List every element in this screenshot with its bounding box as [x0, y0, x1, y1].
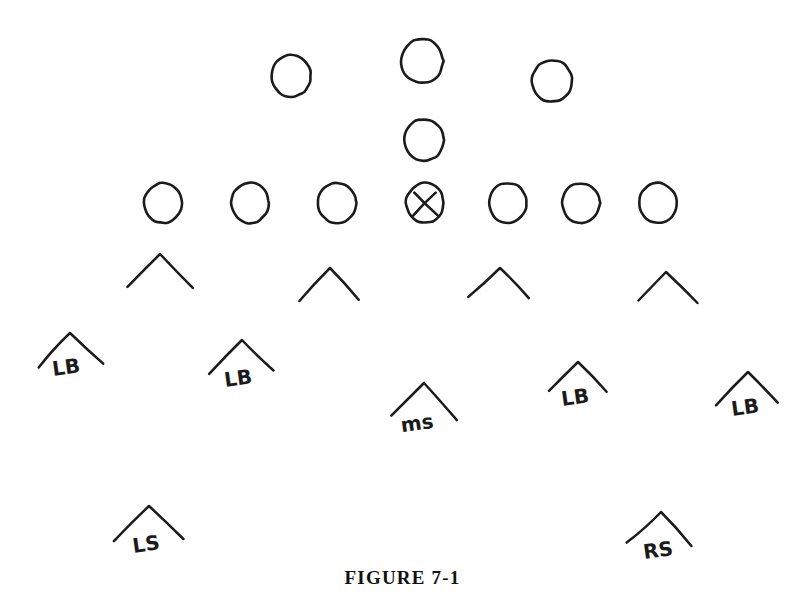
back-right [532, 61, 573, 102]
ol-left-outline [231, 183, 269, 224]
lb-left-label: LB [222, 364, 253, 392]
right-safety-label: RS [642, 536, 675, 564]
ol-left [231, 183, 269, 224]
center-ball [406, 182, 444, 222]
lb-right-label: LB [559, 383, 590, 411]
ol-far-right [639, 183, 676, 223]
dl-1-mark [128, 254, 193, 288]
ol-far-left [144, 183, 182, 223]
lb-far-right: LB [716, 372, 778, 421]
right-safety: RS [627, 512, 692, 564]
ol-right-guard-outline [489, 184, 526, 223]
middle-safety: ms [391, 383, 457, 437]
figure-page: LBLBLBLB msLSRS FIGURE 7-1 [0, 0, 805, 607]
left-safety-label: LS [131, 530, 161, 558]
ol-right [562, 184, 600, 223]
dl-2 [299, 268, 358, 301]
ol-far-left-outline [144, 183, 182, 223]
dl-1 [128, 254, 193, 288]
ol-left-guard-outline [318, 183, 357, 223]
offensive-line-group [144, 182, 677, 223]
lb-far-left-label: LB [50, 353, 81, 381]
dl-4-mark [639, 272, 698, 303]
dl-3 [468, 268, 529, 298]
dl-3-mark [468, 268, 529, 298]
back-center-outline [401, 39, 444, 83]
back-center [401, 39, 444, 83]
defensive-line-group [128, 254, 698, 303]
ol-left-guard [318, 183, 357, 223]
dl-4 [639, 272, 698, 303]
quarterback [404, 120, 444, 161]
lb-far-right-label: LB [729, 393, 760, 421]
dl-2-mark [299, 268, 358, 301]
back-left-outline [272, 55, 311, 97]
quarterback-outline [404, 120, 444, 161]
back-left [272, 55, 311, 97]
ol-far-right-outline [639, 183, 676, 223]
left-safety: LS [114, 506, 183, 558]
ol-right-guard [489, 184, 526, 223]
safety-group: msLSRS [114, 383, 692, 564]
offensive-backfield-group [272, 39, 573, 161]
lb-left: LB [209, 340, 273, 392]
back-right-outline [532, 61, 573, 102]
formation-diagram: LBLBLBLB msLSRS [0, 0, 805, 607]
middle-safety-label: ms [399, 409, 435, 437]
ol-right-outline [562, 184, 600, 223]
figure-caption: FIGURE 7-1 [0, 567, 805, 589]
lb-right: LB [549, 362, 607, 411]
lb-far-left: LB [39, 333, 104, 381]
linebacker-group: LBLBLBLB [39, 333, 778, 421]
